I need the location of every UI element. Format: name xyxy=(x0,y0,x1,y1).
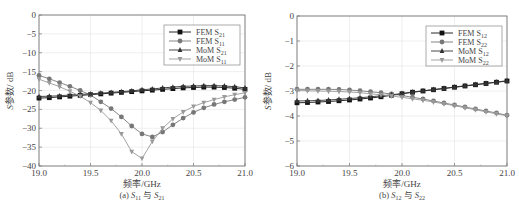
y-tick-label: −30 xyxy=(22,123,37,133)
y-tick-label: −2 xyxy=(284,61,294,71)
legend-marker xyxy=(178,39,183,44)
figure-caption: (b) S12 与 S22 xyxy=(379,190,425,201)
y-tick-label: −15 xyxy=(22,67,37,77)
y-tick-label: −20 xyxy=(22,86,37,96)
chart-panel-b: 19.019.520.020.521.00−1−2−3−4−5−6频率/GHzS… xyxy=(260,0,519,208)
x-axis-title: 频率/GHz xyxy=(383,178,421,189)
data-point-marker xyxy=(150,135,155,140)
data-point-marker xyxy=(109,106,114,111)
y-tick-label: −5 xyxy=(284,136,294,146)
data-point-marker xyxy=(201,105,206,110)
data-point-marker xyxy=(129,150,134,155)
y-tick-label: −40 xyxy=(22,161,37,171)
data-point-marker xyxy=(326,89,331,94)
data-point-marker xyxy=(316,89,321,94)
data-point-marker xyxy=(129,124,134,129)
legend: FEM S12FEM S22MoM S12MoM S22 xyxy=(426,26,502,66)
x-tick-label: 20.5 xyxy=(447,168,463,178)
y-tick-label: −10 xyxy=(22,48,37,58)
x-tick-label: 21.0 xyxy=(499,168,515,178)
data-point-marker xyxy=(68,84,73,89)
y-tick-label: 0 xyxy=(32,10,37,20)
data-point-marker xyxy=(212,102,217,107)
x-tick-label: 20.0 xyxy=(134,168,150,178)
data-point-marker xyxy=(119,115,124,120)
x-tick-label: 20.0 xyxy=(394,168,410,178)
y-tick-label: −35 xyxy=(22,142,37,152)
data-point-marker xyxy=(171,117,176,122)
legend-marker xyxy=(178,30,183,35)
data-point-marker xyxy=(37,73,42,78)
data-point-marker xyxy=(98,99,103,104)
x-tick-label: 19.5 xyxy=(83,168,99,178)
data-point-marker xyxy=(140,157,145,162)
chart-b-svg: 19.019.520.020.521.00−1−2−3−4−5−6频率/GHzS… xyxy=(260,0,519,208)
y-tick-label: −4 xyxy=(284,111,294,121)
y-tick-label: −6 xyxy=(284,161,294,171)
x-axis-title: 频率/GHz xyxy=(123,178,161,189)
data-point-marker xyxy=(88,101,93,106)
y-tick-label: −1 xyxy=(284,36,294,46)
x-tick-label: 20.5 xyxy=(186,168,202,178)
legend-marker xyxy=(440,31,445,36)
data-point-marker xyxy=(232,97,237,102)
data-point-marker xyxy=(171,122,176,127)
data-point-marker xyxy=(57,80,62,85)
chart-panel-a: 19.019.520.020.521.00−5−10−15−20−25−30−3… xyxy=(0,0,260,208)
chart-a-svg: 19.019.520.020.521.00−5−10−15−20−25−30−3… xyxy=(0,0,260,208)
x-tick-label: 21.0 xyxy=(237,168,253,178)
data-point-marker xyxy=(181,110,186,115)
y-tick-label: −25 xyxy=(22,104,37,114)
x-tick-label: 19.5 xyxy=(342,168,358,178)
legend: FEM S21FEM S11MoM S21MoM S11 xyxy=(164,25,240,65)
data-point-marker xyxy=(47,76,52,81)
y-tick-label: 0 xyxy=(290,11,295,21)
data-point-marker xyxy=(181,116,186,121)
y-tick-label: −3 xyxy=(284,86,294,96)
legend-marker xyxy=(440,40,445,45)
data-point-marker xyxy=(222,99,227,104)
data-point-marker xyxy=(191,110,196,115)
figure-caption: (a) S11 与 S21 xyxy=(119,190,164,201)
y-tick-label: −5 xyxy=(26,29,36,39)
data-point-marker xyxy=(140,132,145,137)
y-axis-title: S参数/ dB xyxy=(4,72,15,110)
y-axis-title: S参数/ dB xyxy=(262,72,273,110)
